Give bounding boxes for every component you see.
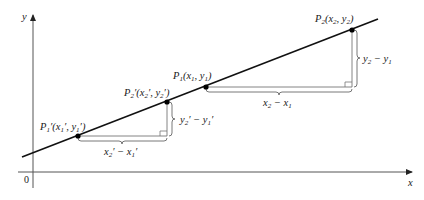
- bracket-run: [206, 89, 352, 95]
- label-rise-primed: y2′ − y1′: [179, 114, 214, 127]
- x-axis-label: x: [407, 177, 413, 188]
- point-p1-prime: [75, 133, 80, 138]
- label-run: x2 − x1: [262, 97, 292, 110]
- label-p2: P2(x2, y2): [314, 13, 354, 26]
- label-p1: P1(x1, y1): [172, 70, 212, 83]
- label-rise: y2 − y1: [362, 53, 392, 66]
- point-p2: [349, 27, 354, 32]
- triangle-primed: [78, 102, 175, 144]
- label-p2-prime: P2′(x2′, y2′): [123, 87, 170, 100]
- label-run-primed: x2′ − x1′: [103, 146, 138, 159]
- point-p2-prime: [164, 99, 169, 104]
- origin-label: 0: [24, 174, 29, 185]
- label-p1-prime: P1′(x1′, y1′): [39, 121, 86, 134]
- bracket-run-primed: [78, 138, 167, 144]
- straight-line: [22, 19, 378, 157]
- slope-diagram: x y 0 P1′(x1′, y1′) P2′(x2′, y2′) P1(x1,…: [0, 0, 424, 200]
- point-p1: [203, 84, 208, 89]
- y-axis-label: y: [21, 11, 27, 22]
- triangle-main: [206, 30, 360, 95]
- bracket-rise-primed: [169, 102, 175, 136]
- axes: x y 0: [18, 11, 413, 188]
- bracket-rise: [354, 30, 360, 87]
